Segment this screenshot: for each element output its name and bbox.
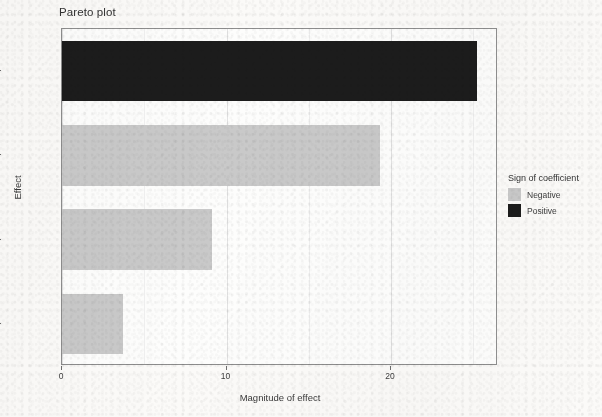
legend: Sign of coefficient NegativePositive <box>508 173 579 220</box>
bar-u7Porteur <box>62 209 212 270</box>
x-tick-label: 0 <box>41 371 81 381</box>
x-tick-label: 20 <box>370 371 410 381</box>
bar-row <box>62 125 496 186</box>
bar-u5OIN <box>62 125 380 186</box>
bar-row <box>62 41 496 102</box>
bar-row <box>62 209 496 270</box>
y-tick-mark <box>0 154 1 155</box>
y-tick-mark <box>0 239 1 240</box>
legend-item-positive[interactable]: Positive <box>508 204 579 217</box>
legend-item-negative[interactable]: Negative <box>508 188 579 201</box>
legend-swatch-icon <box>508 188 521 201</box>
legend-label: Positive <box>527 206 557 216</box>
plot-panel <box>61 28 497 365</box>
legend-label: Negative <box>527 190 561 200</box>
bar-u6LL5 <box>62 41 477 102</box>
x-tick-mark <box>226 366 227 370</box>
bar-u7None <box>62 294 123 355</box>
y-axis-title: Effect <box>12 158 23 218</box>
pareto-plot-figure: Pareto plot Effect Magnitude of effect u… <box>0 0 602 417</box>
chart-title: Pareto plot <box>59 6 116 18</box>
y-tick-mark <box>0 323 1 324</box>
x-axis-title: Magnitude of effect <box>78 392 482 403</box>
bar-row <box>62 294 496 355</box>
y-tick-mark <box>0 70 1 71</box>
legend-swatch-icon <box>508 204 521 217</box>
legend-title: Sign of coefficient <box>508 173 579 183</box>
x-tick-label: 10 <box>206 371 246 381</box>
legend-items: NegativePositive <box>508 188 579 217</box>
x-tick-mark <box>390 366 391 370</box>
x-tick-mark <box>61 366 62 370</box>
